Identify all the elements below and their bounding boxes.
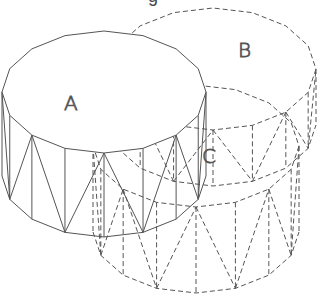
- cylinder-diagonal: [32, 135, 65, 232]
- venn-cylinder-diagram: A B C: [0, 0, 323, 300]
- label-c: C: [202, 144, 216, 168]
- cylinder-diagonal: [10, 135, 32, 199]
- cylinder-diagonal: [235, 189, 268, 288]
- cylinder-diagonal: [291, 146, 299, 255]
- cylinder-diagonal: [213, 130, 252, 181]
- cylinder-diagonal: [252, 112, 285, 181]
- cylinder-diagonal: [143, 135, 176, 232]
- cylinder-diagonal: [176, 135, 198, 199]
- cylinder-a: [2, 31, 206, 237]
- cylinder-diagonal: [123, 189, 156, 288]
- label-b: B: [238, 38, 251, 62]
- cylinder-diagonal: [196, 207, 235, 288]
- cylinder-diagonal: [286, 112, 308, 148]
- cylinder-diagonal: [269, 189, 291, 255]
- cylinder-top-face: [2, 31, 206, 153]
- label-a: A: [64, 91, 78, 115]
